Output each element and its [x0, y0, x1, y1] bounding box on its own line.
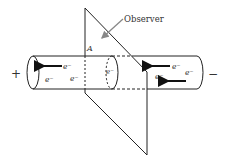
electron-label: e⁻: [172, 62, 180, 71]
point-a-label: A: [86, 44, 93, 53]
observation-plane: [85, 8, 147, 155]
left-end-ellipse: [27, 56, 39, 89]
positive-terminal-label: +: [11, 67, 21, 81]
right-end-arc: [197, 56, 203, 89]
observer-label: Observer: [124, 14, 165, 24]
electron-label: e⁻: [155, 72, 163, 81]
electron-label: e⁻: [185, 68, 193, 77]
electron-label: e⁻: [70, 74, 78, 83]
electron-label: e⁻: [45, 75, 53, 84]
conductor-diagram: Observer A + − e⁻ e⁻ e⁻ e⁻ e⁻ e⁻ e⁻: [0, 0, 230, 158]
electron-label: e⁻: [106, 68, 114, 76]
electron-label: e⁻: [63, 62, 71, 71]
conductor-cylinder: [27, 56, 203, 89]
negative-terminal-label: −: [208, 67, 218, 81]
